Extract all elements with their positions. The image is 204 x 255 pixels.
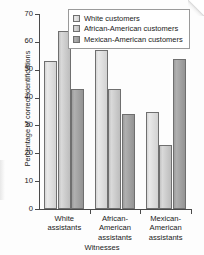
bar [71, 89, 84, 209]
legend-label: Mexican-American customers [84, 35, 183, 44]
legend-item: African-American customers [73, 24, 185, 35]
x-category-label: Whiteassistants [39, 214, 90, 233]
y-tick-label: 0 [29, 204, 33, 213]
legend-item: White customers [73, 13, 185, 24]
page-edge-artifact [0, 160, 5, 200]
chart-legend: White customers African-American custome… [68, 9, 190, 49]
y-tick-label: 40 [25, 92, 33, 101]
bar [159, 145, 172, 209]
y-tick-label: 20 [25, 148, 33, 157]
bar [95, 50, 108, 209]
y-tick-label: 50 [25, 64, 33, 73]
x-category-label: Mexican-Americanassistants [140, 214, 191, 242]
y-axis-title: Percentage of correct identifications [23, 19, 32, 199]
x-group-separator [191, 209, 192, 214]
legend-swatch-mexican-american-customers [73, 36, 80, 43]
legend-swatch-white-customers [73, 15, 80, 22]
x-category-label: African-Americanassistants [90, 214, 141, 242]
y-tick-label: 60 [25, 36, 33, 45]
y-tick-mark [35, 209, 39, 210]
y-tick-label: 70 [25, 9, 33, 18]
bar [173, 59, 186, 209]
x-axis-title: Witnesses [0, 243, 204, 252]
y-tick-label: 30 [25, 120, 33, 129]
bar [44, 61, 57, 209]
bar-chart-figure: Percentage of correct identifications 01… [0, 0, 204, 255]
y-tick-label: 10 [25, 176, 33, 185]
legend-item: Mexican-American customers [73, 34, 185, 45]
bar [146, 112, 159, 210]
legend-label: White customers [84, 14, 140, 23]
bar [122, 114, 135, 209]
legend-label: African-American customers [84, 24, 178, 33]
bar [58, 31, 71, 209]
legend-swatch-african-american-customers [73, 25, 80, 32]
x-axis-line [39, 209, 191, 210]
bar [108, 89, 121, 209]
